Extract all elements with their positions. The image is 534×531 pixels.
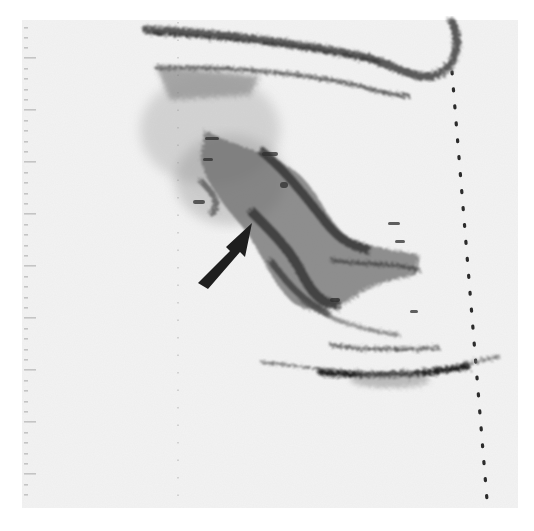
bottom-margin	[0, 508, 534, 531]
ultrasound-image	[0, 0, 534, 531]
